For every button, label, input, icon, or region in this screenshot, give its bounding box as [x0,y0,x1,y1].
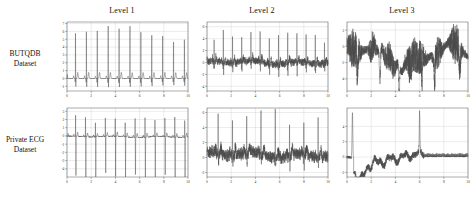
panel-butqdb-level-3: 0246810-4-202 [332,16,472,102]
x-tick-label: 8 [443,94,445,98]
panel-private-ecg-level-1: 0246810-4-3-2-10123 [52,102,192,188]
y-tick-label: 5 [63,38,65,42]
figure-corner-spacer [0,0,52,16]
x-tick-label: 0 [66,94,68,98]
x-tick-label: 10 [326,94,330,98]
row-label-butqdb-line2: Dataset [10,59,41,69]
y-tick-label: -2 [201,73,204,77]
row-label-private-ecg-dataset: Private ECG Dataset [0,102,52,188]
x-tick-label: 4 [115,94,117,98]
x-tick-label: 4 [255,180,257,184]
x-tick-label: 2 [90,180,92,184]
x-tick-label: 4 [255,94,257,98]
x-tick-label: 0 [206,180,208,184]
y-tick-label: 2 [343,29,345,33]
row-label-private-ecg-line1: Private ECG [6,135,44,145]
x-tick-label: 2 [90,94,92,98]
y-tick-label: 4 [63,45,65,49]
y-tick-label: 0 [203,156,205,160]
y-tick-label: 2 [203,49,205,53]
chart-butqdb-level-2: 0246810-4-20246 [192,16,332,102]
x-tick-label: 2 [230,94,232,98]
chart-private-ecg-level-3: 0246810-2024 [332,102,472,188]
x-tick-label: 8 [443,180,445,184]
plot-background [67,108,188,177]
x-tick-label: 0 [346,94,348,98]
row-label-butqdb-dataset: BUTQDB Dataset [0,16,52,102]
x-tick-label: 0 [346,180,348,184]
x-tick-label: 6 [279,94,281,98]
x-tick-label: 10 [466,94,470,98]
x-tick-label: 6 [139,180,141,184]
column-title-level-1: Level 1 [52,0,192,16]
x-tick-label: 2 [230,180,232,184]
y-tick-label: 0 [63,77,65,81]
x-tick-label: 10 [186,94,190,98]
chart-butqdb-level-3: 0246810-4-202 [332,16,472,102]
y-tick-label: -4 [61,167,64,171]
x-tick-label: 8 [163,94,165,98]
x-tick-label: 4 [115,180,117,184]
x-tick-label: 10 [186,180,190,184]
y-tick-label: 2 [203,141,205,145]
x-tick-label: 6 [419,180,421,184]
panel-butqdb-level-2: 0246810-4-20246 [192,16,332,102]
x-tick-label: 6 [139,94,141,98]
y-tick-label: 6 [203,25,205,29]
row-label-butqdb-line1: BUTQDB [10,49,41,59]
x-tick-label: 0 [66,180,68,184]
y-tick-label: 2 [63,61,65,65]
y-tick-label: 1 [63,126,65,130]
x-tick-label: 4 [395,94,397,98]
x-tick-label: 10 [326,180,330,184]
y-tick-label: 4 [203,126,205,130]
y-tick-label: 2 [63,118,65,122]
y-tick-label: 6 [203,111,205,115]
x-tick-label: 4 [395,180,397,184]
y-tick-label: 0 [343,155,345,159]
y-tick-label: 4 [203,37,205,41]
chart-private-ecg-level-2: 0246810-20246 [192,102,332,188]
y-tick-label: -2 [61,151,64,155]
y-tick-label: -2 [341,61,344,65]
y-tick-label: -4 [201,85,204,89]
y-tick-label: 0 [203,61,205,65]
x-tick-label: 2 [370,94,372,98]
x-tick-label: 10 [466,180,470,184]
panel-private-ecg-level-3: 0246810-2024 [332,102,472,188]
y-tick-label: 3 [63,110,65,114]
column-title-level-2: Level 2 [192,0,332,16]
y-tick-label: -3 [61,159,64,163]
y-tick-label: 3 [63,53,65,57]
y-tick-label: 4 [343,125,345,129]
plot-background [67,22,188,91]
ecg-signal-quality-figure: Level 1 Level 2 Level 3 BUTQDB Dataset 0… [0,0,472,204]
x-tick-label: 6 [279,180,281,184]
y-tick-label: 2 [343,140,345,144]
y-tick-label: -2 [341,171,344,175]
chart-private-ecg-level-1: 0246810-4-3-2-10123 [52,102,192,188]
y-tick-label: -4 [341,77,344,81]
plot-background [207,22,328,91]
y-tick-label: 7 [63,22,65,26]
panel-butqdb-level-1: 0246810-101234567 [52,16,192,102]
x-tick-label: 0 [206,94,208,98]
y-tick-label: -1 [61,85,64,89]
x-tick-label: 8 [303,180,305,184]
y-tick-label: 6 [63,30,65,34]
x-tick-label: 8 [303,94,305,98]
y-tick-label: -1 [61,143,64,147]
row-label-private-ecg-line2: Dataset [6,145,44,155]
x-tick-label: 2 [370,180,372,184]
x-tick-label: 6 [419,94,421,98]
y-tick-label: -2 [201,171,204,175]
column-title-level-3: Level 3 [332,0,472,16]
plot-background [347,108,468,177]
y-tick-label: 0 [63,134,65,138]
x-tick-label: 8 [163,180,165,184]
chart-butqdb-level-1: 0246810-101234567 [52,16,192,102]
y-tick-label: 1 [63,69,65,73]
panel-private-ecg-level-2: 0246810-20246 [192,102,332,188]
y-tick-label: 0 [343,45,345,49]
